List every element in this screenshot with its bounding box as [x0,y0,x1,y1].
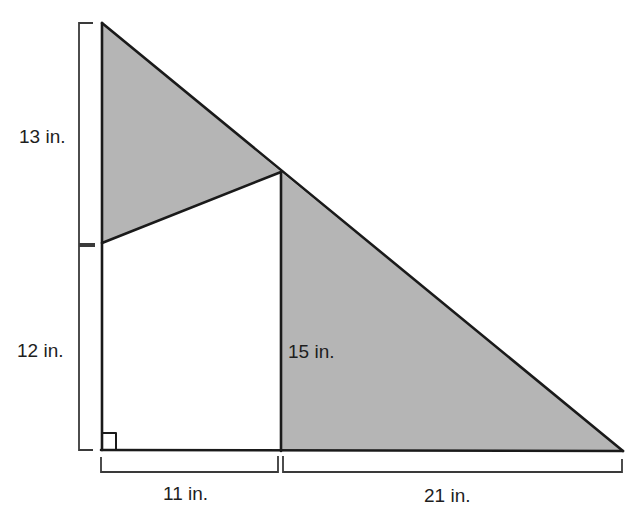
bracket-bottom-right [283,456,622,472]
bracket-bottom-left [101,456,278,472]
label-bottom-left: 11 in. [163,483,208,504]
label-inner-vertical: 15 in. [288,341,334,362]
geometry-diagram: 13 in. 12 in. 15 in. 11 in. 21 in. [0,0,637,516]
label-left-upper: 13 in. [19,126,65,147]
right-angle-marker [102,433,116,450]
label-left-lower: 12 in. [17,340,63,361]
bracket-left-lower [79,246,95,450]
label-bottom-right: 21 in. [424,485,470,506]
base-edge [101,450,623,451]
bracket-left-upper [79,23,95,244]
upper-shaded-triangle [102,23,281,243]
